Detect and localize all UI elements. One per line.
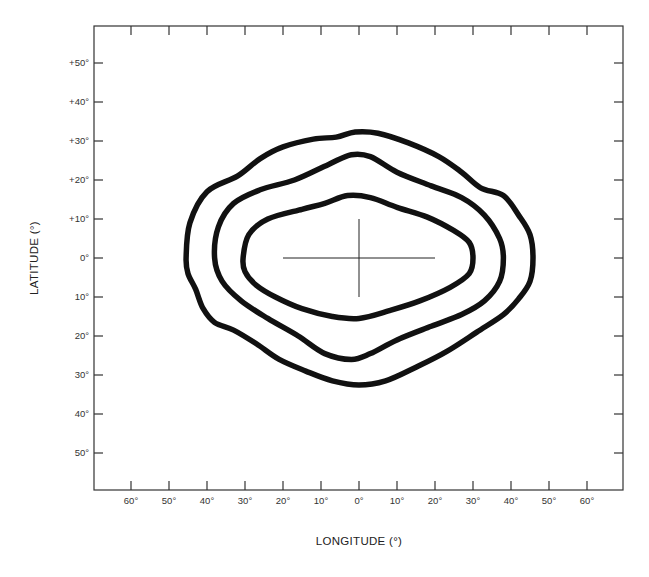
y-axis-left-ticks — [94, 63, 103, 453]
x-tick-label: 20° — [276, 495, 291, 506]
x-tick-label: 10° — [314, 495, 329, 506]
y-tick-label: 0° — [80, 252, 89, 263]
x-tick-label: 20° — [428, 495, 443, 506]
x-tick-label: 40° — [200, 495, 215, 506]
x-tick-label: 50° — [162, 495, 177, 506]
x-axis-tick-labels: 60°50°40°30°20°10°0°10°20°30°40°50°60° — [124, 495, 595, 506]
y-tick-label: 40° — [75, 408, 90, 419]
x-tick-label: 0° — [354, 495, 363, 506]
y-tick-label: +20° — [69, 174, 89, 185]
x-tick-label: 30° — [238, 495, 253, 506]
y-tick-label: 10° — [75, 291, 90, 302]
x-tick-label: 50° — [542, 495, 557, 506]
y-axis-right-ticks — [614, 63, 623, 453]
y-tick-label: +40° — [69, 96, 89, 107]
contour-inner — [243, 195, 473, 319]
contour-chart: 60°50°40°30°20°10°0°10°20°30°40°50°60° +… — [0, 0, 649, 577]
x-tick-label: 60° — [124, 495, 139, 506]
x-tick-label: 10° — [390, 495, 405, 506]
y-tick-label: 30° — [75, 369, 90, 380]
center-crosshair — [283, 219, 435, 297]
y-tick-label: +10° — [69, 213, 89, 224]
y-axis-tick-labels: +50°+40°+30°+20°+10°0°10°20°30°40°50° — [69, 57, 89, 458]
x-tick-label: 30° — [466, 495, 481, 506]
y-axis-title: LATITUDE (°) — [28, 221, 40, 295]
y-tick-label: 50° — [75, 447, 90, 458]
x-axis-bottom-ticks — [131, 481, 587, 490]
x-axis-title: LONGITUDE (°) — [316, 535, 402, 547]
y-tick-label: +50° — [69, 57, 89, 68]
x-axis-top-ticks — [131, 26, 587, 35]
y-tick-label: 20° — [75, 330, 90, 341]
x-tick-label: 60° — [580, 495, 595, 506]
x-tick-label: 40° — [504, 495, 519, 506]
y-tick-label: +30° — [69, 135, 89, 146]
